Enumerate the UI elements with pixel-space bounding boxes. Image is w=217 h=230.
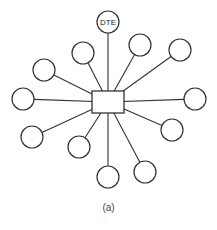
figure-caption: (a) (0, 202, 217, 213)
svg-text:DTE: DTE (100, 18, 116, 27)
node-dte: DTE (97, 11, 119, 33)
node-circle (134, 161, 156, 183)
node-circle (21, 126, 43, 148)
node-circle (169, 39, 191, 61)
node-circle (68, 136, 90, 158)
node-circle (184, 88, 206, 110)
node-circle (129, 34, 151, 56)
node-circle (33, 59, 55, 81)
hub-box (92, 91, 124, 113)
star-network-diagram: DTE (0, 0, 217, 230)
node-circle (97, 166, 119, 188)
node-circle (12, 88, 34, 110)
node-circle (161, 119, 183, 141)
node-circle (72, 42, 94, 64)
